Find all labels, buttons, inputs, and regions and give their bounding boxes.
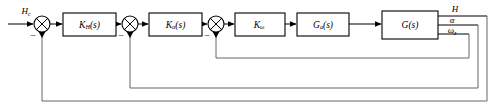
block-k-omega[interactable]: Kω	[235, 13, 285, 36]
block-k-h[interactable]: KH(s)	[63, 13, 116, 36]
plant-output-taps	[438, 16, 487, 34]
summing-junction-3-sign: −	[204, 30, 210, 41]
block-diagram-svg: KH(s) Kα(s) Kω Ga(s) G(s) −	[0, 0, 496, 112]
block-k-alpha[interactable]: Kα(s)	[149, 13, 202, 36]
summing-junction-1[interactable]: −	[30, 16, 50, 41]
block-g-a-label: Ga(s)	[313, 20, 333, 31]
block-g-plant[interactable]: G(s)	[382, 11, 438, 39]
feedback-alpha-arrowhead	[127, 32, 134, 38]
commanded-altitude-input-label: Hc	[20, 6, 31, 17]
block-k-alpha-label: Kα(s)	[165, 20, 186, 31]
block-g-a[interactable]: Ga(s)	[297, 13, 349, 36]
output-label-omega: ωz	[448, 25, 457, 36]
feedback-altitude-arrowhead	[39, 32, 46, 38]
block-g-plant-label: G(s)	[402, 20, 419, 31]
summing-junction-3[interactable]: −	[204, 16, 224, 41]
block-diagram-canvas: KH(s) Kα(s) Kω Ga(s) G(s) −	[0, 0, 496, 112]
block-k-h-label: KH(s)	[78, 20, 100, 31]
summing-junction-2[interactable]: −	[118, 16, 138, 41]
feedback-omega-arrowhead	[213, 32, 220, 38]
output-label-alpha: α	[450, 15, 455, 25]
output-label-altitude: H	[451, 4, 459, 14]
summing-junction-2-sign: −	[118, 30, 124, 41]
summing-junction-1-sign: −	[30, 30, 36, 41]
